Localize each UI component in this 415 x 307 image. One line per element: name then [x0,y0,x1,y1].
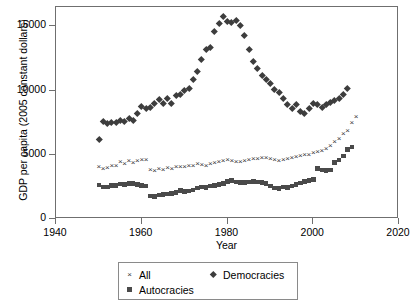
data-point [350,145,355,150]
y-tick-label: 5000 [0,147,46,159]
x-tick-label: 1980 [197,226,257,238]
data-point [250,58,256,64]
chart-root: GDP per capita (2005 constant dollars) 0… [0,0,415,307]
diamond-marker-icon [209,270,218,279]
x-tick-mark [55,218,56,224]
data-point [144,184,149,189]
y-tick-label: 15000 [0,18,46,30]
data-point [311,177,316,182]
x-tick-mark [141,218,142,224]
y-axis-title: GDP per capita (2005 constant dollars) [17,0,29,225]
legend-label: Autocracies [139,284,194,296]
data-point [211,28,217,34]
legend-item[interactable]: ×All [125,269,209,281]
x-tick-mark [312,218,313,224]
data-point [254,65,260,71]
data-point [96,136,102,142]
data-point [328,168,333,173]
legend-item[interactable]: Democracies [209,269,305,281]
data-point [134,110,140,116]
x-tick-label: 1940 [25,226,85,238]
data-point [160,100,166,106]
data-point [130,117,136,123]
data-point [169,100,175,106]
x-tick-mark [398,218,399,224]
y-tick-label: 10000 [0,83,46,95]
x-tick-label: 2020 [368,226,415,238]
data-point: × [344,127,352,135]
legend-item[interactable]: Autocracies [125,284,209,296]
data-point [280,95,286,101]
data-point [341,154,346,159]
data-point [344,85,350,91]
data-point [194,68,200,74]
x-axis-title: Year [55,239,398,251]
data-point [301,110,307,116]
data-point [246,46,252,52]
x-tick-label: 1960 [111,226,171,238]
data-point [216,20,222,26]
data-point: × [142,156,150,164]
plot-area: ××××××××××××××××××××××××××××××××××××××××… [56,7,397,217]
data-point [199,56,205,62]
x-tick-label: 2000 [282,226,342,238]
chart-legend: ×AllDemocraciesAutocracies [118,262,298,300]
y-tick-label: 0 [0,211,46,223]
data-point [190,76,196,82]
data-point: × [352,113,360,121]
data-point [207,44,213,50]
data-point [267,80,273,86]
x-tick-mark [227,218,228,224]
square-marker-icon [125,285,134,294]
legend-label: Democracies [223,269,284,281]
legend-label: All [139,269,151,281]
data-point [237,22,243,28]
data-point [306,105,312,111]
data-point [241,32,247,38]
x-marker-icon: × [125,270,134,279]
plot-frame: ××××××××××××××××××××××××××××××××××××××××… [55,6,398,218]
